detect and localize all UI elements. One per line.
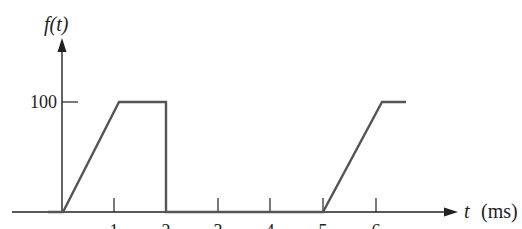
signal-chart: 100 1 2 3 4 5 6 f(t) t (ms) [0, 0, 522, 229]
y-axis-label: f(t) [44, 13, 69, 36]
x-axis-unit-label: (ms) [481, 200, 518, 223]
svg-text:4: 4 [266, 221, 275, 229]
svg-text:2: 2 [162, 221, 171, 229]
x-axis-arrow-icon [444, 208, 458, 217]
x-ticks [114, 198, 376, 212]
y-axis-arrow-icon [58, 38, 67, 52]
x-tick-labels: 1 2 3 4 5 6 [110, 221, 381, 229]
svg-text:6: 6 [372, 221, 381, 229]
x-axis-var-label: t [464, 200, 470, 222]
y-tick-label-100: 100 [30, 92, 57, 112]
signal-line [48, 102, 406, 212]
svg-text:3: 3 [214, 221, 223, 229]
svg-text:1: 1 [110, 221, 119, 229]
svg-text:5: 5 [319, 221, 328, 229]
